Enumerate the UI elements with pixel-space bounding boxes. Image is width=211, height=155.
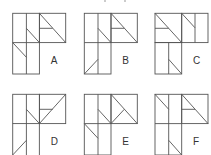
- figure-option-a[interactable]: A: [13, 13, 66, 74]
- figure-option-c[interactable]: C: [155, 13, 208, 74]
- option-label-e: E: [122, 136, 129, 147]
- option-label-d: D: [51, 136, 58, 147]
- options-diagram: A B C D: [0, 0, 211, 155]
- figure-option-b[interactable]: B: [84, 13, 137, 74]
- option-label-a: A: [51, 55, 58, 66]
- option-label-c: C: [193, 55, 200, 66]
- cropped-title-fragment: [104, 0, 126, 2]
- figure-option-f[interactable]: F: [155, 94, 208, 155]
- option-label-f: F: [193, 136, 199, 147]
- figure-option-d[interactable]: D: [13, 94, 66, 155]
- option-label-b: B: [122, 55, 129, 66]
- figure-option-e[interactable]: E: [84, 94, 137, 155]
